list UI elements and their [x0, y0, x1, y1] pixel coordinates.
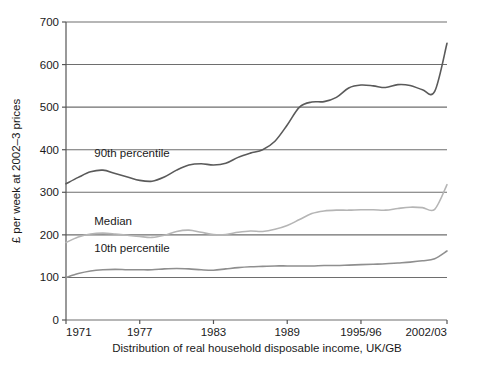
series-label-90th-percentile: 90th percentile [94, 147, 169, 159]
x-tick-label-1983: 1983 [201, 326, 227, 338]
x-axis-title: Distribution of real household disposabl… [112, 342, 402, 354]
chart-container: 0100200300400500600700 19711977198319891… [0, 0, 482, 374]
y-axis-title: £ per week at 2002–3 prices [10, 99, 22, 244]
y-tick-label-600: 600 [40, 59, 59, 71]
line-chart: 0100200300400500600700 19711977198319891… [0, 0, 482, 374]
y-tick-label-700: 700 [40, 16, 59, 28]
series-label-10th-percentile: 10th percentile [94, 242, 169, 254]
series-label-median: Median [94, 215, 132, 227]
y-tick-label-100: 100 [40, 271, 59, 283]
x-tick-label-2002/03: 2002/03 [405, 326, 447, 338]
x-tick-label-1971: 1971 [66, 326, 92, 338]
x-tick-label-1995/96: 1995/96 [340, 326, 382, 338]
chart-background [0, 0, 482, 374]
y-tick-label-500: 500 [40, 101, 59, 113]
y-tick-label-0: 0 [53, 314, 59, 326]
y-tick-label-400: 400 [40, 144, 59, 156]
y-tick-label-200: 200 [40, 229, 59, 241]
y-tick-label-300: 300 [40, 186, 59, 198]
x-tick-label-1989: 1989 [274, 326, 300, 338]
x-tick-label-1977: 1977 [127, 326, 153, 338]
